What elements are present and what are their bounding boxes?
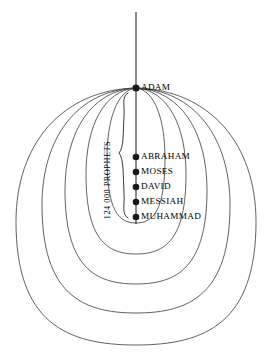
brace-label-prophets-count: 124 000 PROPHETS	[103, 141, 112, 219]
node-messiah-dot-icon	[133, 199, 140, 206]
node-muhammad-label: MUHAMMAD	[141, 211, 201, 221]
node-messiah[interactable]: MESSIAH	[133, 196, 184, 206]
node-adam-label: ADAM	[141, 82, 170, 92]
node-david-dot-icon	[133, 184, 140, 191]
node-muhammad-dot-icon	[133, 214, 140, 221]
prophets-lineage-diagram: 124 000 PROPHETS ADAMABRAHAMMOSESDAVIDME…	[0, 0, 271, 362]
node-abraham-dot-icon	[133, 154, 140, 161]
node-moses-label: MOSES	[141, 166, 173, 176]
node-david-label: DAVID	[141, 181, 171, 191]
node-messiah-label: MESSIAH	[141, 196, 183, 206]
node-moses-dot-icon	[133, 169, 140, 176]
node-abraham[interactable]: ABRAHAM	[133, 151, 190, 161]
node-adam-dot-icon	[132, 84, 139, 91]
node-abraham-label: ABRAHAM	[141, 151, 190, 161]
diagram-root: 124 000 PROPHETS ADAMABRAHAMMOSESDAVIDME…	[0, 0, 271, 362]
node-muhammad[interactable]: MUHAMMAD	[133, 211, 201, 221]
